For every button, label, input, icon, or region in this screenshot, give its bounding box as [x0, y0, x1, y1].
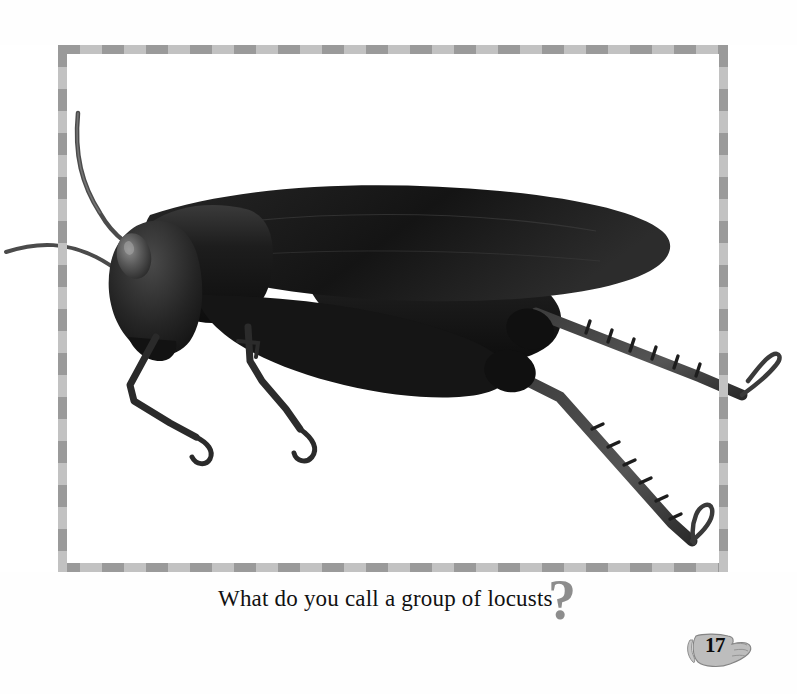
checkered-photo-border — [58, 45, 728, 572]
frame-right-edge — [719, 45, 728, 572]
page-number-badge: 17 — [682, 626, 762, 670]
frame-top-edge — [58, 45, 728, 54]
page-number: 17 — [698, 633, 732, 658]
caption: What do you call a group of locusts ? — [0, 586, 797, 632]
frame-bottom-edge — [58, 563, 728, 572]
question-mark-icon: ? — [548, 572, 576, 628]
frame-left-edge — [58, 45, 67, 572]
caption-text: What do you call a group of locusts — [218, 586, 553, 612]
book-page: What do you call a group of locusts ? 17 — [0, 0, 797, 694]
